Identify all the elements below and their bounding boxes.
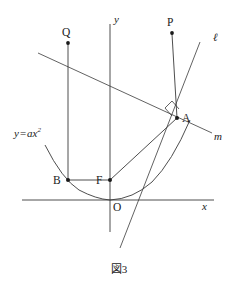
x-axis-label: x xyxy=(202,201,207,212)
line-label-l: ℓ xyxy=(213,32,218,43)
equation-equals: = xyxy=(19,127,27,139)
line-label-m: m xyxy=(214,131,222,142)
parabola-equation-label: y=ax2 xyxy=(14,127,41,139)
point-dot-F xyxy=(108,178,112,182)
equation-exponent: 2 xyxy=(38,126,42,134)
point-dot-Q xyxy=(66,41,70,45)
point-dot-P xyxy=(170,31,174,35)
point-dot-A xyxy=(175,116,179,120)
figure-container: y=ax2 Q P A B F O y x ℓ m 図3 xyxy=(0,0,238,292)
point-label-F: F xyxy=(96,175,102,187)
point-label-O: O xyxy=(113,202,121,214)
segment-FA xyxy=(110,118,177,180)
point-label-Q: Q xyxy=(62,27,70,39)
point-dot-B xyxy=(66,178,70,182)
point-label-A: A xyxy=(182,113,190,125)
y-axis-label: y xyxy=(114,14,119,25)
parabola-curve xyxy=(45,120,190,200)
line-l xyxy=(120,42,200,248)
figure-caption: 図3 xyxy=(0,260,238,276)
equation-coefficient: ax xyxy=(27,127,37,139)
geometry-diagram xyxy=(0,0,238,292)
point-label-P: P xyxy=(167,17,173,29)
point-label-B: B xyxy=(53,175,61,187)
